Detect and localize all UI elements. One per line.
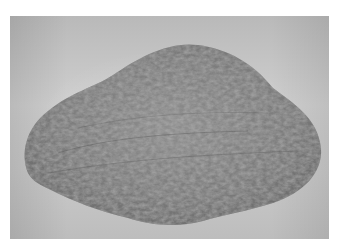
- skin-lesion: [18, 33, 325, 228]
- lesion-shape: [18, 33, 325, 228]
- lesion-photograph: [10, 16, 329, 239]
